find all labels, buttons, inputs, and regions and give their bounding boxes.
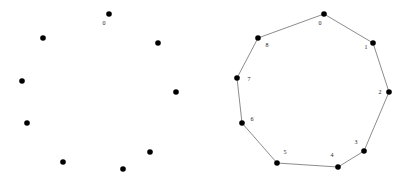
point-label: 7 xyxy=(248,76,251,82)
point-dot xyxy=(234,75,240,81)
point-dot xyxy=(173,89,179,95)
point-dot xyxy=(321,11,327,17)
point-label: 6 xyxy=(251,116,254,122)
point-label: 0 xyxy=(319,20,322,26)
figure-canvas: 0 012345678 xyxy=(0,0,410,178)
point-dot xyxy=(147,149,153,155)
point-dot xyxy=(40,35,46,41)
point-dot xyxy=(361,148,367,154)
point-label: 3 xyxy=(355,139,358,145)
points-and-polygon-figure: 0 012345678 xyxy=(0,0,410,178)
point-dot xyxy=(255,35,261,41)
point-dot xyxy=(106,11,112,17)
point-dot xyxy=(370,40,376,46)
point-label: 4 xyxy=(331,152,334,158)
point-label: 0 xyxy=(103,20,106,26)
polygon-edge xyxy=(338,151,364,167)
point-label: 5 xyxy=(284,149,287,155)
point-dot xyxy=(120,166,126,172)
point-dot xyxy=(239,120,245,126)
point-dot xyxy=(274,160,280,166)
point-dot xyxy=(386,89,392,95)
point-dot xyxy=(335,164,341,170)
polygon-edge xyxy=(373,43,389,92)
polygon-edge xyxy=(258,14,324,38)
polygon-edge xyxy=(237,38,258,78)
point-dot xyxy=(155,40,161,46)
polygon-edge xyxy=(324,14,373,43)
point-label: 8 xyxy=(266,42,269,48)
polygon-edge xyxy=(364,92,389,151)
polygon-edge xyxy=(242,123,277,163)
scatter-panel: 0 xyxy=(19,11,179,172)
point-dot xyxy=(19,78,25,84)
point-dot xyxy=(24,120,30,126)
polygon-panel: 012345678 xyxy=(234,11,392,170)
point-dot xyxy=(60,159,66,165)
polygon-edge xyxy=(237,78,242,123)
polygon-edge xyxy=(277,163,338,167)
point-label: 2 xyxy=(379,89,382,95)
point-label: 1 xyxy=(365,44,368,50)
